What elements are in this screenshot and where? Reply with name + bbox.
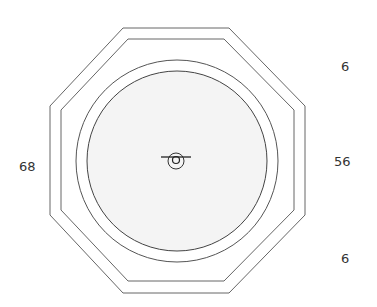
- label-right-middle: 56: [334, 155, 351, 168]
- label-right-top-gap: 6: [341, 60, 349, 73]
- label-left-width: 68: [19, 160, 36, 173]
- label-right-bottom-gap: 6: [341, 252, 349, 265]
- inner-disc: [87, 71, 267, 251]
- diagram-canvas: [0, 0, 377, 307]
